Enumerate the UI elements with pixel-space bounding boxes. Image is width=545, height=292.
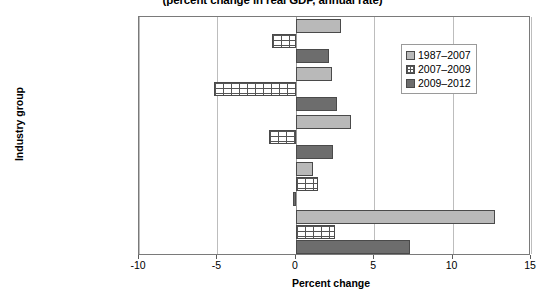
bar	[296, 162, 313, 176]
chart-title: (percent change in real GDP, annual rate…	[0, 0, 545, 6]
bar	[296, 115, 351, 129]
gridline-x--5	[217, 17, 218, 254]
chart-legend: 1987–20072007–20092009–2012	[401, 44, 477, 94]
bar	[296, 49, 329, 63]
bar	[296, 67, 332, 81]
bar	[214, 82, 296, 96]
bar	[296, 210, 495, 224]
legend-item[interactable]: 2009–2012	[406, 76, 471, 90]
bar	[272, 34, 296, 48]
x-tick-label: 10	[422, 259, 482, 271]
legend-label: 1987–2007	[418, 49, 471, 61]
gridline-x--10	[139, 17, 140, 254]
bar	[296, 240, 410, 254]
legend-swatch-icon	[406, 51, 415, 60]
x-tick-label: 5	[343, 259, 403, 271]
bar	[296, 177, 318, 191]
legend-swatch-icon	[406, 65, 415, 74]
chart-container: (percent change in real GDP, annual rate…	[0, 0, 545, 292]
bar	[269, 130, 296, 144]
bar	[293, 192, 296, 206]
legend-label: 2009–2012	[418, 77, 471, 89]
x-tick-label: 0	[265, 259, 325, 271]
bar	[296, 145, 334, 159]
gridline-x-15	[531, 17, 532, 254]
legend-item[interactable]: 1987–2007	[406, 48, 471, 62]
x-tick-label: 15	[500, 259, 545, 271]
bar	[296, 97, 337, 111]
bar	[296, 225, 335, 239]
legend-item[interactable]: 2007–2009	[406, 62, 471, 76]
bar	[296, 19, 341, 33]
legend-swatch-icon	[406, 79, 415, 88]
y-axis-title: Industry group	[13, 74, 25, 174]
x-tick-label: -5	[186, 259, 246, 271]
legend-label: 2007–2009	[418, 63, 471, 75]
x-axis-title: Percent change	[131, 277, 531, 289]
x-tick-label: -10	[108, 259, 168, 271]
